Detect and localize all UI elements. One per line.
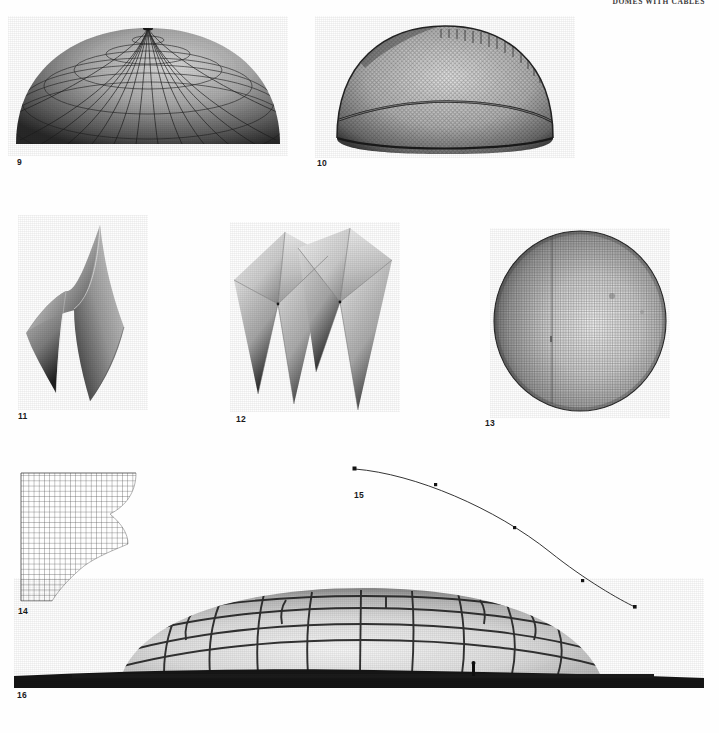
figure-12-number: 12 — [236, 414, 246, 424]
figure-9: 9 — [0, 16, 300, 181]
running-head: DOMES WITH CABLES — [612, 0, 705, 6]
figure-9-number: 9 — [17, 157, 22, 167]
figure-13-plate — [490, 228, 670, 418]
figure-10-number: 10 — [317, 158, 327, 168]
hypar-saddle-image — [18, 215, 148, 410]
figure-10-plate — [315, 16, 575, 158]
figure-11-number: 11 — [18, 411, 27, 421]
mesh-dome-image — [315, 16, 575, 158]
figure-11: 11 — [8, 215, 158, 430]
ribbed-dome-image — [8, 16, 288, 156]
figure-16-number: 16 — [17, 690, 27, 700]
radome-image — [14, 578, 704, 688]
figure-10: 10 — [305, 16, 585, 181]
figure-13: 13 — [470, 228, 670, 433]
figure-11-plate — [18, 215, 148, 410]
figure-15-number: 15 — [354, 490, 364, 500]
figure-9-plate — [8, 16, 288, 156]
figure-12: 12 — [225, 222, 405, 427]
figure-12-plate — [230, 222, 400, 412]
spherical-net-image — [490, 228, 670, 418]
figure-13-number: 13 — [485, 418, 495, 428]
book-page: DOMES WITH CABLES — [0, 0, 719, 733]
rhombic-hypar-image — [230, 222, 400, 412]
figure-16: 16 — [0, 578, 719, 728]
figure-16-plate — [14, 578, 704, 688]
